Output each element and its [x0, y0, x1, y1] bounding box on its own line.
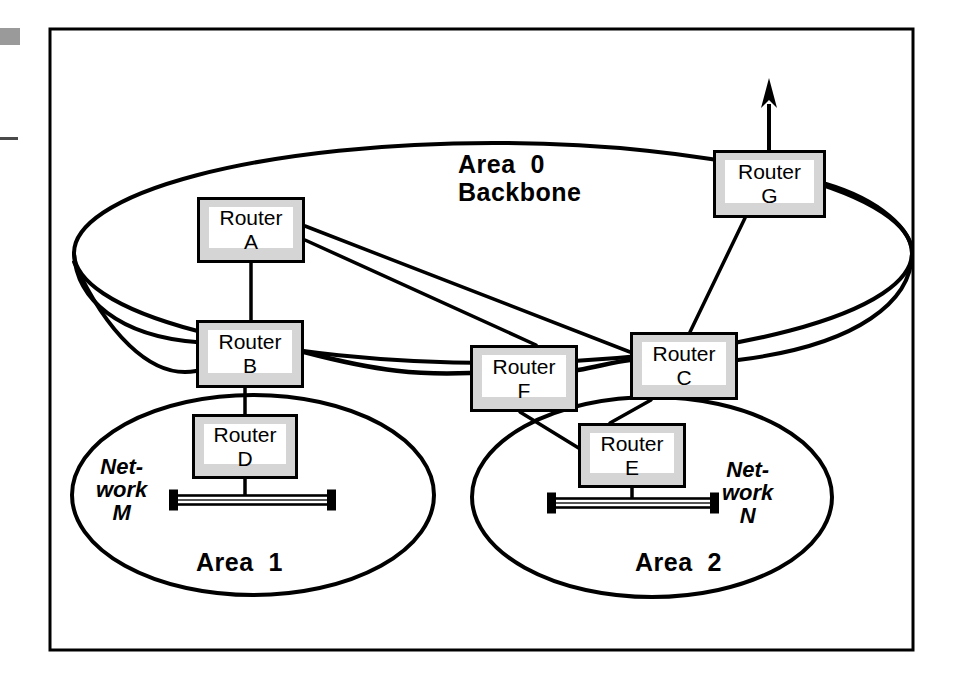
network-label-line2: work	[722, 481, 773, 504]
network-label-line2: work	[96, 478, 147, 501]
network-label-line3: N	[722, 504, 773, 527]
network-label-m: Net-workM	[96, 455, 147, 524]
external-route-arrowhead-icon	[761, 78, 777, 108]
diagram-canvas: RouterARouterBRouterCRouterDRouterERoute…	[0, 0, 962, 689]
area-label-area0: Area 0	[458, 150, 545, 179]
lan-bar-cap-left-n	[547, 493, 556, 514]
network-label-line3: M	[96, 501, 147, 524]
area-label-area1: Area 1	[196, 548, 283, 577]
lan-bar-cap-right-m	[327, 490, 336, 511]
networks-layer	[0, 0, 962, 689]
network-label-line1: Net-	[722, 458, 773, 481]
lan-bar-cap-right-n	[710, 493, 719, 514]
network-label-line1: Net-	[96, 455, 147, 478]
lan-bar-cap-left-m	[169, 490, 178, 511]
area-label-area2: Area 2	[635, 548, 722, 577]
network-label-n: Net-workN	[722, 458, 773, 527]
lan-segment-bars	[169, 490, 719, 514]
external-arrow-group	[761, 78, 777, 150]
area-sublabel-area0: Backbone	[458, 178, 581, 207]
